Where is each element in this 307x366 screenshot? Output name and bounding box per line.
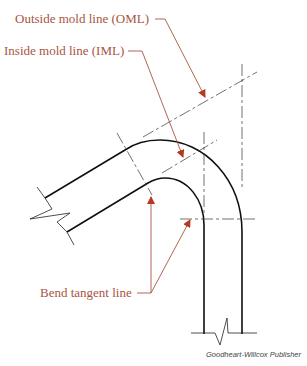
publisher-credit: Goodheart-Willcox Publisher: [206, 350, 301, 359]
bend-tangent-label: Bend tangent line: [40, 285, 132, 301]
btl-leader-vertical: [137, 197, 151, 293]
oml-line: [143, 72, 257, 137]
bend-tangent-left: [117, 133, 152, 195]
iml-label: Inside mold line (IML): [4, 43, 124, 59]
break-lines: [30, 187, 257, 345]
part-outline: [45, 140, 242, 334]
btl-leader-diagonal: [151, 220, 190, 293]
iml-line: [162, 140, 217, 173]
outer-profile: [45, 140, 242, 334]
bend-diagram: Outside mold line (OML) Inside mold line…: [0, 0, 307, 366]
oml-leader: [155, 19, 205, 97]
oml-label: Outside mold line (OML): [15, 11, 149, 27]
left-break: [30, 187, 74, 245]
inner-profile: [67, 178, 204, 334]
bottom-break: [191, 318, 257, 345]
callout-leaders: [128, 19, 205, 293]
